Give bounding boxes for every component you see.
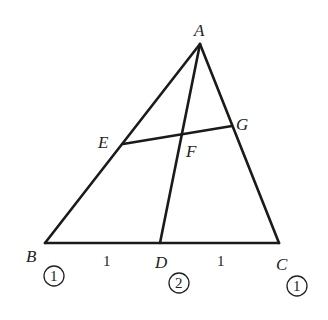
label-B: B (26, 247, 37, 266)
weight-D: 2 (175, 275, 183, 291)
segment-AC (200, 44, 279, 243)
label-E: E (97, 133, 109, 152)
weight-C: 1 (293, 278, 301, 294)
triangle-diagram: A B C D E F G 1 1 1 2 1 (0, 0, 328, 320)
label-C: C (276, 255, 288, 274)
length-DC: 1 (217, 253, 225, 269)
length-BD: 1 (103, 253, 111, 269)
label-F: F (185, 142, 197, 161)
segment-EG (123, 126, 232, 144)
weight-B: 1 (50, 268, 58, 284)
label-D: D (154, 253, 168, 272)
label-A: A (193, 21, 205, 40)
label-G: G (236, 115, 248, 134)
